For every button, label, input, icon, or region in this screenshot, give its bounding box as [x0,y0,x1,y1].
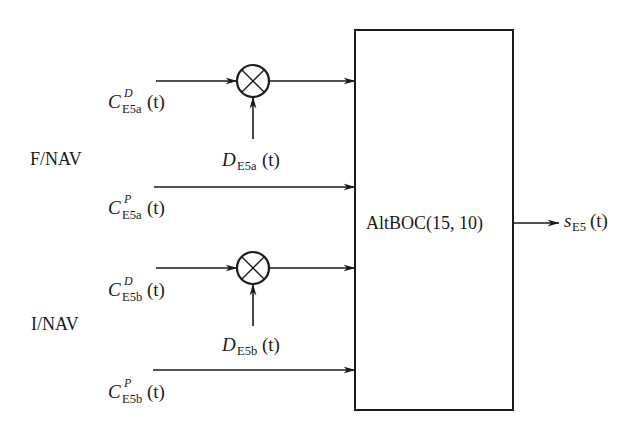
svg-text:D: D [221,334,236,355]
altboc-block-label: AltBOC(15, 10) [366,213,483,234]
inav-label: I/NAV [31,314,79,334]
svg-text:E5b: E5b [122,290,142,304]
c-e5b-d-label: C D E5b (t) [108,274,165,304]
svg-text:D: D [221,149,236,170]
svg-text:s: s [564,210,571,231]
d-e5a-label: D E5a (t) [221,149,280,173]
s-e5-output-label: s E5 (t) [564,210,608,234]
svg-text:C: C [108,279,121,300]
d-e5b-label: D E5b (t) [221,334,280,358]
svg-text:E5: E5 [572,220,586,234]
svg-text:(t): (t) [590,210,608,232]
svg-text:(t): (t) [147,91,165,113]
svg-text:C: C [108,91,121,112]
svg-text:(t): (t) [147,279,165,301]
svg-text:C: C [108,197,121,218]
svg-text:D: D [123,274,133,288]
svg-text:E5a: E5a [122,102,142,116]
c-e5b-p-label: C P E5b (t) [108,376,165,406]
c-e5a-p-label: C P E5a (t) [108,192,165,222]
altboc-e5-diagram: AltBOC(15, 10) F/NAV I/NAV C D E5a (t) D… [0,0,631,437]
svg-text:(t): (t) [262,149,280,171]
multiplier-e5b-icon [237,252,269,284]
svg-text:E5b: E5b [237,344,257,358]
svg-text:E5a: E5a [237,159,257,173]
svg-text:P: P [123,376,132,390]
svg-text:P: P [123,192,132,206]
svg-text:(t): (t) [262,334,280,356]
svg-text:D: D [123,86,133,100]
svg-text:C: C [108,381,121,402]
svg-text:E5b: E5b [122,392,142,406]
c-e5a-d-label: C D E5a (t) [108,86,165,116]
multiplier-e5a-icon [237,65,269,97]
svg-text:E5a: E5a [122,208,142,222]
svg-text:(t): (t) [147,381,165,403]
fnav-label: F/NAV [30,149,82,169]
svg-text:(t): (t) [147,197,165,219]
